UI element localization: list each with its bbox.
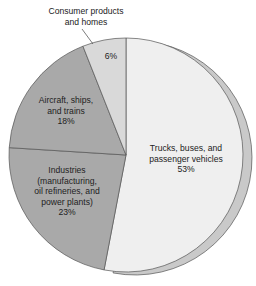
- percent-value: 18%: [26, 116, 106, 127]
- percent-value: 23%: [22, 207, 112, 218]
- label-line: and trains: [26, 106, 106, 117]
- percent-value: 53%: [136, 164, 236, 175]
- label-line: Industries: [22, 165, 112, 176]
- label-industries: Industries (manufacturing, oil refinerie…: [22, 165, 112, 218]
- label-consumer-products: Consumer products and homes: [30, 6, 142, 27]
- label-line: (manufacturing,: [22, 176, 112, 187]
- label-trucks-buses: Trucks, buses, and passenger vehicles 53…: [136, 143, 236, 175]
- consumer-leader-line: [82, 29, 93, 44]
- label-line: power plants): [22, 197, 112, 208]
- label-line: Trucks, buses, and: [136, 143, 236, 154]
- label-line: oil refineries, and: [22, 186, 112, 197]
- percent-value: 6%: [96, 51, 126, 62]
- pct-consumer-products: 6%: [96, 51, 126, 62]
- label-aircraft-ships-trains: Aircraft, ships, and trains 18%: [26, 95, 106, 127]
- label-line: passenger vehicles: [136, 154, 236, 165]
- label-line: Consumer products: [30, 6, 142, 17]
- label-line: and homes: [30, 17, 142, 28]
- label-line: Aircraft, ships,: [26, 95, 106, 106]
